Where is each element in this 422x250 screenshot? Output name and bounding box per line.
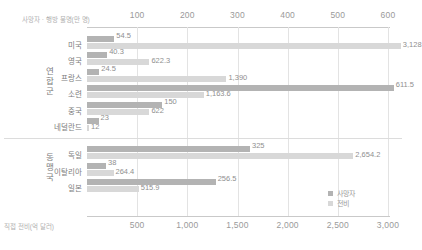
category-label-독일: 독일 (0, 149, 82, 160)
bottom-axis-caption: 직접 전비(억 달러) (4, 221, 54, 231)
bottom-axis-tick-0: 500 (115, 220, 159, 230)
bottom-axis-tick-2: 1,500 (216, 220, 260, 230)
group-label-연합군: 연합군 (44, 66, 56, 96)
bar-cost-프랑스 (87, 76, 226, 82)
top-axis-tick-4: 500 (318, 10, 358, 20)
category-label-네덜란드: 네덜란드 (0, 121, 82, 132)
bar-cost-영국 (87, 59, 149, 65)
value-deaths-중국: 150 (164, 97, 177, 106)
value-deaths-독일: 325 (252, 141, 265, 150)
bar-cost-독일 (87, 153, 353, 159)
bottom-axis-tick-3: 2,000 (266, 220, 310, 230)
legend-label-전비: 전비 (337, 200, 349, 207)
top-axis-caption: 사망자 · 행방 불명(만 명) (22, 14, 90, 24)
gridline-1 (187, 27, 188, 216)
value-cost-영국: 622.3 (151, 56, 170, 65)
value-deaths-이탈리아: 38 (108, 158, 116, 167)
value-deaths-일본: 256.5 (218, 174, 237, 183)
category-label-이탈리아: 이탈리아 (0, 166, 82, 177)
legend-item-사망자: 사망자 (328, 190, 355, 197)
legend-swatch-전비 (328, 201, 333, 206)
legend-label-사망자: 사망자 (337, 190, 355, 197)
value-deaths-프랑스: 24.5 (101, 64, 116, 73)
category-label-일본: 일본 (0, 182, 82, 193)
value-cost-프랑스: 1,390 (228, 73, 247, 82)
bottom-axis-tick-5: 3,000 (366, 220, 410, 230)
bottom-axis-tick-4: 2,500 (316, 220, 360, 230)
value-cost-네덜란드: 12 (91, 122, 99, 131)
value-cost-중국: 622 (151, 106, 164, 115)
bar-deaths-프랑스 (87, 69, 99, 75)
category-label-소련: 소련 (0, 88, 82, 99)
bar-cost-이탈리아 (87, 170, 114, 176)
bar-deaths-독일 (87, 146, 250, 152)
bar-cost-미국 (87, 43, 401, 49)
bar-deaths-이탈리아 (87, 163, 106, 169)
bar-cost-소련 (87, 92, 204, 98)
gridline-5 (388, 27, 389, 216)
value-cost-소련: 1,163.6 (206, 89, 231, 98)
value-cost-이탈리아: 264.4 (116, 167, 135, 176)
value-deaths-네덜란드: 23 (101, 113, 109, 122)
bar-deaths-미국 (87, 36, 114, 42)
gridline-2 (238, 27, 239, 216)
chart-legend: 사망자전비 (328, 190, 355, 210)
top-axis-tick-0: 100 (117, 10, 157, 20)
bottom-axis-tick-1: 1,000 (165, 220, 209, 230)
legend-item-전비: 전비 (328, 200, 355, 207)
group-label-동맹국: 동맹국 (44, 152, 56, 182)
bar-cost-일본 (87, 186, 139, 192)
value-deaths-미국: 54.5 (116, 31, 131, 40)
bar-deaths-영국 (87, 52, 107, 58)
value-deaths-영국: 40.3 (109, 47, 124, 56)
bar-cost-네덜란드 (87, 125, 89, 131)
value-cost-독일: 2,654.2 (355, 150, 380, 159)
value-deaths-소련: 611.5 (396, 80, 414, 89)
top-axis-tick-5: 600 (368, 10, 408, 20)
top-axis-tick-3: 400 (268, 10, 308, 20)
legend-swatch-사망자 (328, 191, 333, 196)
gridline-3 (288, 27, 289, 216)
top-axis-tick-1: 200 (167, 10, 207, 20)
value-cost-미국: 3,128 (403, 40, 422, 49)
top-axis-tick-2: 300 (218, 10, 258, 20)
category-label-미국: 미국 (0, 39, 82, 50)
bar-deaths-소련 (87, 85, 394, 91)
category-label-중국: 중국 (0, 105, 82, 116)
gridline-4 (338, 27, 339, 216)
bottom-axis-line (87, 216, 390, 217)
category-label-영국: 영국 (0, 55, 82, 66)
value-cost-일본: 515.9 (141, 183, 160, 192)
bar-cost-중국 (87, 109, 149, 115)
category-label-프랑스: 프랑스 (0, 72, 82, 83)
group-separator (4, 138, 402, 139)
